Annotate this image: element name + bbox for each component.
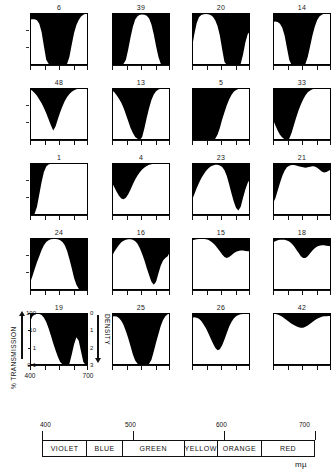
- spectrum-scale-tick: [224, 431, 225, 440]
- spectrum-scale-tick: [133, 431, 134, 440]
- spectrum-scale: 400500600700VIOLETBLUEGREENYELLOWORANGER…: [0, 0, 335, 470]
- spectrum-band-violet: VIOLET: [43, 441, 87, 456]
- spectrum-band-bar: VIOLETBLUEGREENYELLOWORANGERED: [42, 440, 315, 457]
- spectrum-scale-label: 500: [125, 421, 136, 428]
- spectrum-scale-tick: [315, 431, 316, 440]
- spectrum-band-yellow: YELLOW: [185, 441, 218, 456]
- wavelength-unit-label: mµ: [295, 460, 307, 469]
- spectrum-scale-label: 600: [216, 421, 227, 428]
- spectrum-band-blue: BLUE: [87, 441, 123, 456]
- spectrum-scale-label: 700: [299, 421, 310, 428]
- spectral-transmission-figure: 639201448135331423212416151819252642% TR…: [0, 0, 335, 470]
- spectrum-band-green: GREEN: [123, 441, 185, 456]
- spectrum-band-red: RED: [262, 441, 314, 456]
- spectrum-band-orange: ORANGE: [218, 441, 262, 456]
- spectrum-scale-label: 400: [40, 421, 51, 428]
- spectrum-scale-tick: [42, 431, 43, 440]
